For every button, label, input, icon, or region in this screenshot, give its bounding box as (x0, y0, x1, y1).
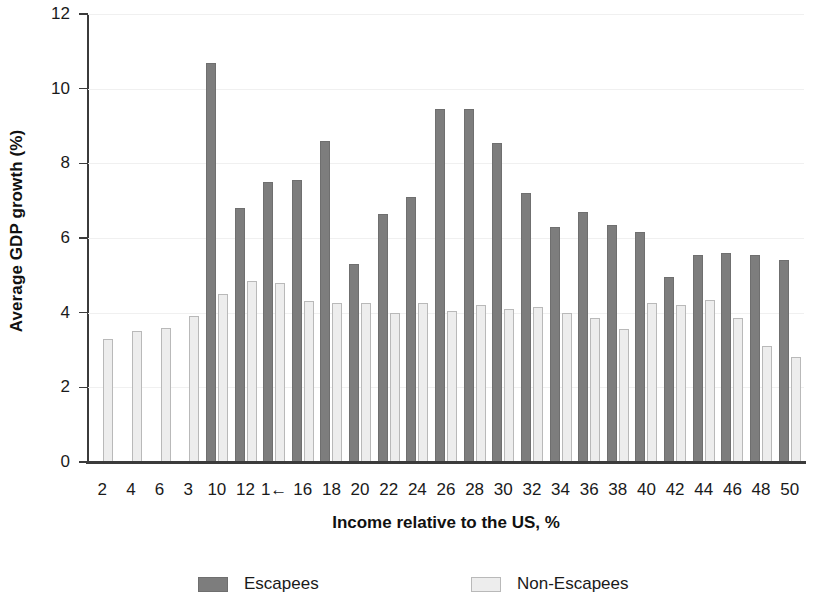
bar-escapees[interactable] (664, 277, 674, 462)
y-axis-tick-label: 10 (38, 80, 70, 97)
x-axis-tick-label: 20 (346, 481, 375, 498)
bar-escapees[interactable] (349, 264, 359, 462)
x-axis-tick-label: 2 (88, 481, 117, 498)
bar-non-escapees[interactable] (390, 313, 400, 462)
bar-non-escapees[interactable] (791, 357, 801, 462)
bar-escapees[interactable] (635, 232, 645, 462)
bar-group (460, 14, 489, 462)
bar-non-escapees[interactable] (161, 328, 171, 462)
y-axis-tick-label: 12 (38, 5, 70, 22)
bar-non-escapees[interactable] (189, 316, 199, 462)
y-axis-tick-label: 0 (38, 453, 70, 470)
bar-non-escapees[interactable] (476, 305, 486, 462)
x-axis-tick-label: 40 (632, 481, 661, 498)
bar-escapees[interactable] (550, 227, 560, 462)
bar-escapees[interactable] (779, 260, 789, 462)
bar-non-escapees[interactable] (590, 318, 600, 462)
bar-non-escapees[interactable] (361, 303, 371, 462)
bar-escapees[interactable] (263, 182, 273, 462)
bar-non-escapees[interactable] (533, 307, 543, 462)
bar-escapees[interactable] (492, 143, 502, 462)
x-axis-tick-label: 34 (546, 481, 575, 498)
bar-non-escapees[interactable] (247, 281, 257, 462)
bar-escapees[interactable] (578, 212, 588, 462)
bar-escapees[interactable] (406, 197, 416, 462)
bar-group (546, 14, 575, 462)
bar-escapees[interactable] (464, 109, 474, 462)
y-axis-tick-label: 4 (38, 304, 70, 321)
bar-group (403, 14, 432, 462)
x-axis-tick-label: 30 (489, 481, 518, 498)
y-axis-tick-mark (79, 387, 88, 389)
bar-escapees[interactable] (320, 141, 330, 462)
bar-non-escapees[interactable] (332, 303, 342, 462)
bar-escapees[interactable] (693, 255, 703, 462)
x-axis-tick-label: 38 (604, 481, 633, 498)
bar-non-escapees[interactable] (762, 346, 772, 462)
bar-non-escapees[interactable] (275, 283, 285, 462)
legend-swatch-escapees-icon (198, 577, 228, 592)
bar-group (575, 14, 604, 462)
bar-escapees[interactable] (378, 214, 388, 462)
bar-non-escapees[interactable] (132, 331, 142, 462)
bar-group (317, 14, 346, 462)
bar-group (432, 14, 461, 462)
y-axis-tick-mark (79, 312, 88, 314)
y-axis-tick-mark (79, 13, 88, 15)
bar-group (174, 14, 203, 462)
x-axis-tick-label: 28 (460, 481, 489, 498)
bar-group (346, 14, 375, 462)
bar-non-escapees[interactable] (676, 305, 686, 462)
bar-group (231, 14, 260, 462)
bar-group (718, 14, 747, 462)
bar-escapees[interactable] (292, 180, 302, 462)
bar-escapees[interactable] (235, 208, 245, 462)
bar-non-escapees[interactable] (619, 329, 629, 462)
x-axis-tick-label: 44 (689, 481, 718, 498)
bar-non-escapees[interactable] (733, 318, 743, 462)
y-axis-tick-label: 2 (38, 378, 70, 395)
bar-escapees[interactable] (750, 255, 760, 462)
bar-group (260, 14, 289, 462)
x-axis-tick-label: 4 (117, 481, 146, 498)
y-axis-tick-mark (79, 163, 88, 165)
bar-escapees[interactable] (607, 225, 617, 462)
bar-non-escapees[interactable] (562, 313, 572, 462)
bar-group (632, 14, 661, 462)
bar-non-escapees[interactable] (504, 309, 514, 462)
bar-non-escapees[interactable] (705, 300, 715, 462)
bar-non-escapees[interactable] (304, 301, 314, 462)
bar-escapees[interactable] (721, 253, 731, 462)
bar-non-escapees[interactable] (447, 311, 457, 462)
x-axis-tick-label: 24 (403, 481, 432, 498)
y-axis-tick-mark (79, 88, 88, 90)
bar-non-escapees[interactable] (103, 339, 113, 462)
bar-group (203, 14, 232, 462)
bar-escapees[interactable] (521, 193, 531, 462)
legend-item-non-escapees[interactable]: Non-Escapees (471, 574, 629, 594)
legend-item-escapees[interactable]: Escapees (198, 574, 319, 594)
x-axis-tick-label: 16 (288, 481, 317, 498)
x-axis-tick-label: 6 (145, 481, 174, 498)
bar-group (775, 14, 804, 462)
x-axis-tick-label: 42 (661, 481, 690, 498)
x-axis-tick-label: 12 (231, 481, 260, 498)
x-axis-tick-label: 10 (203, 481, 232, 498)
bar-escapees[interactable] (435, 109, 445, 462)
y-axis-tick-mark (79, 237, 88, 239)
x-axis-tick-label: 18 (317, 481, 346, 498)
bar-group (117, 14, 146, 462)
x-axis-line (86, 461, 806, 464)
x-axis-tick-label: 50 (775, 481, 804, 498)
x-axis-tick-label: 26 (432, 481, 461, 498)
bar-group (88, 14, 117, 462)
legend-swatch-non-escapees-icon (471, 577, 501, 592)
bar-non-escapees[interactable] (218, 294, 228, 462)
x-axis-tick-label: 46 (718, 481, 747, 498)
bar-non-escapees[interactable] (418, 303, 428, 462)
bar-non-escapees[interactable] (647, 303, 657, 462)
bar-group (489, 14, 518, 462)
bar-escapees[interactable] (206, 63, 216, 462)
x-axis-tick-label: 48 (747, 481, 776, 498)
bar-group (145, 14, 174, 462)
